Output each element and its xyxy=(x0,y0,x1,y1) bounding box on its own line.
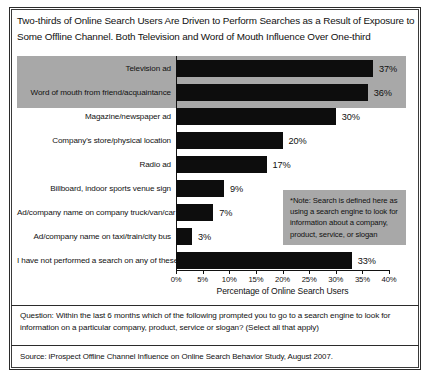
bar xyxy=(176,228,192,245)
bar-category-label: Ad/company name on taxi/train/city bus xyxy=(17,232,176,242)
bar-track: 20% xyxy=(176,129,406,153)
bar-category-label: Magazine/newspaper ad xyxy=(17,112,176,122)
note-text: *Note: Search is defined here as using a… xyxy=(290,195,399,240)
axis-tick xyxy=(256,270,257,274)
axis-tick-label: 30% xyxy=(328,275,343,284)
table-row: Magazine/newspaper ad30% xyxy=(17,105,406,129)
axis-tick-label: 15% xyxy=(248,275,263,284)
axis-tick-label: 25% xyxy=(302,275,317,284)
bar-value-label: 37% xyxy=(379,64,397,74)
bar xyxy=(176,132,283,149)
axis-tick xyxy=(203,270,204,274)
axis-tick-label: 5% xyxy=(197,275,208,284)
bar-category-label: Television ad xyxy=(17,64,176,74)
axis-tick xyxy=(176,270,177,274)
table-row: Word of mouth from friend/acquaintance36… xyxy=(17,81,406,105)
bar-track: 36% xyxy=(176,81,406,105)
axis-tick-label: 10% xyxy=(222,275,237,284)
bar-value-label: 30% xyxy=(342,112,360,122)
bar xyxy=(176,156,267,173)
bar-value-label: 33% xyxy=(358,256,376,266)
bar-category-label: I have not performed a search on any of … xyxy=(17,256,176,266)
bar-category-label: Word of mouth from friend/acquaintance xyxy=(17,88,176,98)
axis-tick-label: 0% xyxy=(171,275,182,284)
axis-tick xyxy=(309,270,310,274)
axis-tick xyxy=(229,270,230,274)
bar-category-label: Billboard, indoor sports venue sign xyxy=(17,184,176,194)
axis-tick-label: 40% xyxy=(382,275,397,284)
table-row: Company's store/physical location20% xyxy=(17,129,406,153)
bar-value-label: 17% xyxy=(273,160,291,170)
bar-value-label: 36% xyxy=(374,88,392,98)
bar-value-label: 20% xyxy=(289,136,307,146)
table-row: Television ad37% xyxy=(17,57,406,81)
bar-track: 37% xyxy=(176,57,406,81)
axis-tick xyxy=(362,270,363,274)
bar-category-label: Company's store/physical location xyxy=(17,136,176,146)
bar-value-label: 3% xyxy=(198,232,211,242)
x-axis-title: Percentage of Online Search Users xyxy=(176,286,389,296)
table-row: Radio ad17% xyxy=(17,153,406,177)
bar-category-label: Ad/company name on company truck/van/car xyxy=(17,208,176,218)
x-axis: 0%5%10%15%20%25%30%35%40% xyxy=(176,270,389,271)
bar xyxy=(176,204,213,221)
bar xyxy=(176,180,224,197)
axis-tick xyxy=(283,270,284,274)
bar-track: 17% xyxy=(176,153,406,177)
bar-value-label: 7% xyxy=(219,208,232,218)
bar-track: 30% xyxy=(176,105,406,129)
page-title: Two-thirds of Online Search Users Are Dr… xyxy=(17,13,417,44)
question-text: Question: Within the last 6 months which… xyxy=(20,310,412,334)
bar xyxy=(176,84,368,101)
divider-above-question xyxy=(11,305,419,306)
bar-value-label: 9% xyxy=(230,184,243,194)
axis-tick xyxy=(336,270,337,274)
axis-tick-label: 35% xyxy=(355,275,370,284)
bar xyxy=(176,108,336,125)
axis-tick xyxy=(389,270,390,274)
bar-category-label: Radio ad xyxy=(17,160,176,170)
chart-screenshot: Two-thirds of Online Search Users Are Dr… xyxy=(0,0,431,385)
note-box: *Note: Search is defined here as using a… xyxy=(283,190,406,245)
bar xyxy=(176,252,352,269)
axis-tick-label: 20% xyxy=(275,275,290,284)
source-text: Source: iProspect Offline Channel Influe… xyxy=(20,351,412,362)
divider-above-source xyxy=(11,345,419,346)
bar xyxy=(176,60,373,77)
